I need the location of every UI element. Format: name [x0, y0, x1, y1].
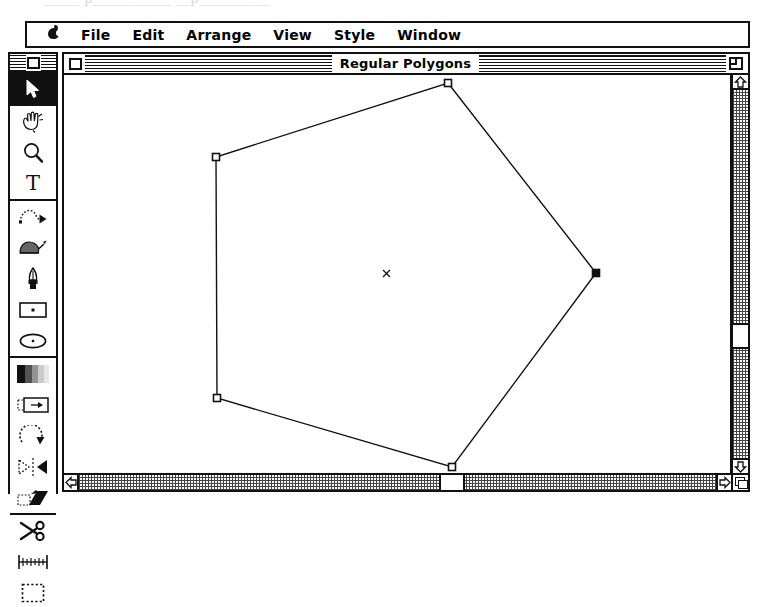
close-box[interactable] — [69, 58, 82, 70]
vertex-handle-top[interactable] — [445, 80, 452, 87]
tool-palette: T — [8, 52, 58, 494]
tool-group-draw — [10, 201, 56, 358]
tool-pen[interactable] — [10, 263, 56, 294]
scroll-right-arrow[interactable] — [716, 475, 731, 490]
paint-brush-icon — [18, 238, 48, 258]
vertex-handle-right[interactable] — [593, 270, 600, 277]
vertical-scroll-thumb[interactable] — [733, 323, 748, 349]
regular-pentagon-shape[interactable] — [216, 83, 596, 467]
tool-group-view: T — [10, 106, 56, 201]
canvas-svg — [64, 75, 731, 473]
menu-item-view[interactable]: View — [262, 25, 323, 45]
vertex-handle-bottom-right[interactable] — [449, 464, 456, 471]
palette-stripes-left — [10, 54, 26, 71]
text-tool-icon: T — [26, 173, 40, 194]
scroll-down-arrow[interactable] — [733, 458, 748, 473]
tool-skew[interactable] — [10, 482, 56, 513]
window-title: Regular Polygons — [332, 56, 479, 71]
vertical-scrollbar[interactable] — [731, 75, 748, 473]
scan-artifact: _____ p___________ __p__________ — [0, 0, 781, 22]
title-bar-stripes-right — [479, 54, 726, 73]
tool-zoom[interactable] — [10, 137, 56, 168]
tool-text[interactable]: T — [10, 168, 56, 199]
tool-list: T — [8, 73, 58, 494]
scroll-down-arrow-icon — [734, 461, 747, 473]
blend-gradient-icon — [17, 365, 49, 383]
magnifier-icon — [22, 142, 44, 164]
vertex-handle-bottom-left[interactable] — [214, 395, 221, 402]
tool-measure[interactable] — [10, 546, 56, 577]
rectangle-icon — [19, 302, 47, 318]
tool-marquee[interactable] — [10, 577, 56, 607]
menu-item-apple[interactable] — [27, 25, 70, 45]
scissors-icon — [19, 520, 47, 542]
tool-brush[interactable] — [10, 232, 56, 263]
scan-ghost-text: _____ p___________ __p__________ — [44, 0, 270, 6]
move-object-icon — [17, 395, 49, 415]
tool-ellipse[interactable] — [10, 325, 56, 356]
tool-rotate[interactable] — [10, 420, 56, 451]
menu-item-window[interactable]: Window — [386, 25, 472, 45]
tool-reflect[interactable] — [10, 451, 56, 482]
tool-hand[interactable] — [10, 106, 56, 137]
ruler-icon — [17, 553, 49, 571]
horizontal-scrollbar[interactable] — [64, 473, 731, 490]
reflect-flip-icon — [17, 457, 49, 477]
menu-item-edit[interactable]: Edit — [121, 25, 175, 45]
menu-item-file[interactable]: File — [70, 25, 121, 45]
scroll-up-arrow-icon — [734, 76, 747, 88]
palette-close-box[interactable] — [27, 57, 40, 69]
horizontal-scroll-track[interactable] — [79, 475, 716, 490]
tool-blend[interactable] — [10, 358, 56, 389]
grow-box-square-front — [738, 480, 748, 489]
pen-nib-icon — [25, 267, 41, 291]
palette-stripes-right — [41, 54, 57, 71]
scroll-right-arrow-icon — [719, 476, 731, 489]
bezier-path-icon — [18, 206, 48, 228]
ellipse-icon — [19, 333, 47, 349]
tool-move[interactable] — [10, 389, 56, 420]
marquee-icon — [21, 583, 45, 603]
drawing-canvas[interactable] — [64, 75, 731, 473]
hand-icon — [20, 111, 46, 133]
scroll-left-arrow-icon — [65, 476, 77, 489]
tool-rectangle[interactable] — [10, 294, 56, 325]
menu-item-arrange[interactable]: Arrange — [175, 25, 262, 45]
rotate-icon — [19, 425, 47, 447]
scroll-left-arrow[interactable] — [64, 475, 79, 490]
zoom-box[interactable] — [729, 57, 743, 70]
title-bar-stripes-left — [85, 54, 332, 73]
vertex-handle-left[interactable] — [213, 154, 220, 161]
tool-group-transform — [10, 358, 56, 515]
tool-group-select — [10, 73, 56, 106]
vertical-scroll-track[interactable] — [733, 90, 748, 458]
apple-logo-icon — [47, 25, 60, 40]
menu-item-style[interactable]: Style — [323, 25, 386, 45]
arrow-pointer-icon — [25, 79, 41, 99]
center-cross-icon — [383, 270, 390, 277]
document-window: Regular Polygons — [62, 52, 750, 492]
horizontal-scroll-thumb[interactable] — [439, 475, 465, 490]
window-title-bar[interactable]: Regular Polygons — [64, 54, 748, 75]
tool-scissors[interactable] — [10, 515, 56, 546]
palette-title-bar[interactable] — [8, 52, 58, 73]
menu-bar: File Edit Arrange View Style Window — [25, 21, 750, 48]
tool-group-edit — [10, 515, 56, 607]
tool-arrow[interactable] — [10, 73, 56, 104]
tool-bezier[interactable] — [10, 201, 56, 232]
scroll-up-arrow[interactable] — [733, 75, 748, 90]
grow-box[interactable] — [731, 473, 748, 490]
skew-shear-icon — [17, 488, 49, 508]
